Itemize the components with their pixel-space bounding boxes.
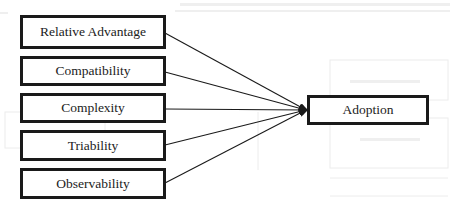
node-label: Compatibility [55, 63, 130, 79]
node-compatibility: Compatibility [20, 56, 166, 86]
node-relative-advantage: Relative Advantage [20, 15, 166, 49]
edge-observability-to-adoption [165, 110, 306, 183]
node-complexity: Complexity [20, 93, 166, 123]
node-triability: Triability [20, 130, 166, 161]
node-observability: Observability [20, 168, 166, 199]
node-label: Observability [56, 176, 130, 192]
edge-triability-to-adoption [165, 110, 306, 145]
node-label: Relative Advantage [40, 24, 146, 40]
edge-compatibility-to-adoption [165, 72, 306, 110]
node-label: Triability [68, 138, 119, 154]
node-label: Adoption [342, 102, 393, 118]
node-adoption: Adoption [307, 95, 429, 125]
node-label: Complexity [61, 100, 125, 116]
edge-complexity-to-adoption [165, 109, 306, 110]
edge-relative-advantage-to-adoption [165, 33, 306, 110]
